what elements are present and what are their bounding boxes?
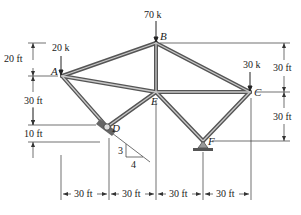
dim-left-2: 30 ft <box>24 96 43 106</box>
truss-figure <box>0 0 301 215</box>
dim-left-3: 10 ft <box>24 129 43 139</box>
dim-right-1: 30 ft <box>273 63 292 73</box>
slope-run: 4 <box>131 160 136 170</box>
joint-c-label: C <box>254 87 261 98</box>
dim-left-1: 20 ft <box>4 54 23 64</box>
dim-bottom-4: 30 ft <box>216 189 235 199</box>
joint-e-label: E <box>151 96 158 107</box>
joint-b-label: B <box>160 31 167 42</box>
load-a-label: 20 k <box>52 43 70 53</box>
joint-a-label: A <box>51 66 58 77</box>
load-b-label: 70 k <box>144 10 162 20</box>
dim-bottom-1: 30 ft <box>74 189 93 199</box>
dim-right-2: 30 ft <box>273 112 292 122</box>
load-c-label: 30 k <box>243 60 261 70</box>
joint-f-label: F <box>208 136 215 147</box>
dim-bottom-2: 30 ft <box>122 189 141 199</box>
joint-d-label: D <box>112 123 120 134</box>
dim-bottom-3: 30 ft <box>169 189 188 199</box>
slope-rise: 3 <box>118 146 123 156</box>
